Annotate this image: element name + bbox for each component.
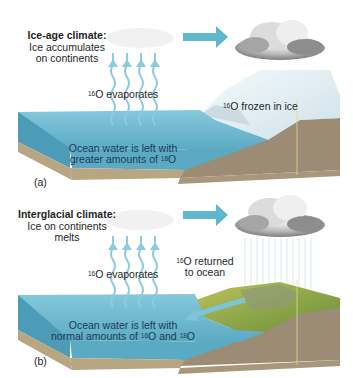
panel-label-b: (b): [34, 355, 47, 367]
wind-arrow-icon: [183, 26, 228, 48]
returned-label-line2: to ocean: [170, 267, 240, 279]
panel-interglacial: Interglacial climate: Ice on continents …: [0, 190, 353, 378]
frozen-in-ice-label: 16O frozen in ice: [223, 101, 298, 113]
interglacial-title: Interglacial climate:: [12, 209, 122, 221]
panel-label-a: (a): [34, 176, 47, 188]
panel-ice-age: Ice-age climate: Ice accumulates on cont…: [0, 0, 353, 190]
evaporates-label-a: 16O evaporates: [88, 89, 158, 101]
ocean-text-b-line2: normal amounts of 16O and 18O: [38, 331, 208, 343]
interglacial-subtitle-line2: melts: [12, 232, 122, 244]
wind-arrow-icon: [183, 204, 228, 226]
ocean-text-a-line2: greater amounts of 18O: [58, 154, 188, 166]
ice-age-title: Ice-age climate:: [22, 30, 112, 42]
cloud-icon: [235, 195, 325, 237]
evaporates-label-b: 16O evaporates: [88, 269, 158, 281]
cloud-icon: [235, 20, 325, 60]
ice-age-subtitle-line2: on continents: [22, 53, 112, 65]
